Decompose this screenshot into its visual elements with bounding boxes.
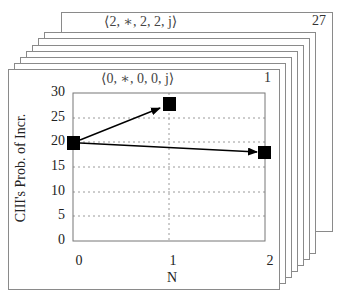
plot-area (0, 0, 338, 297)
edge-0-1 (80, 108, 160, 140)
grid-lines (73, 93, 265, 241)
data-point-1 (163, 97, 176, 111)
data-point-0 (67, 136, 80, 150)
data-point-2 (258, 146, 271, 159)
